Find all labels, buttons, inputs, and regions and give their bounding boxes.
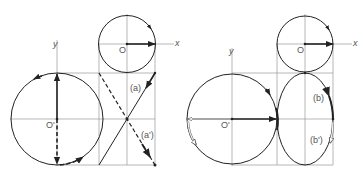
y-axis-label-right: y <box>229 47 234 56</box>
left-panel <box>10 14 174 167</box>
origin-prime-label-left: O' <box>46 121 55 130</box>
origin-label-left: O <box>119 46 126 55</box>
left-grid <box>10 14 174 166</box>
origin-prime-label-right: O' <box>221 121 230 130</box>
diagram-canvas <box>0 0 363 173</box>
origin-label-right: O <box>297 46 304 55</box>
curve-b-prime-label: (b') <box>310 136 323 145</box>
right-panel <box>186 14 352 166</box>
x-axis-label-right: x <box>353 39 358 48</box>
curve-a-prime-label: (a') <box>141 131 154 140</box>
x-axis-label-left: x <box>175 39 180 48</box>
curve-b-label: (b) <box>313 94 324 103</box>
y-axis-label-left: y <box>53 40 58 49</box>
curve-a-label: (a) <box>130 84 141 93</box>
